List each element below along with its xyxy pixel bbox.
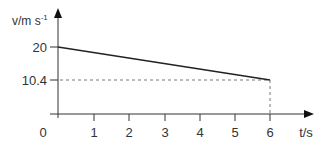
y-axis-label: v/m s-1 — [12, 13, 48, 28]
x-tick-label-5: 5 — [231, 125, 238, 140]
x-tick-label-3: 3 — [161, 125, 168, 140]
x-tick-label-6: 6 — [266, 125, 273, 140]
velocity-line — [58, 47, 270, 80]
y-axis-arrow-icon — [54, 8, 62, 18]
x-tick-label-1: 1 — [90, 125, 97, 140]
velocity-time-chart: v/m s-1 20 10.4 0 1 2 3 4 5 6 t/s — [0, 0, 328, 148]
x-axis-arrow-icon — [304, 110, 314, 118]
origin-label: 0 — [39, 125, 46, 140]
x-tick-label-4: 4 — [196, 125, 203, 140]
x-tick-label-2: 2 — [125, 125, 132, 140]
y-tick-label-20: 20 — [33, 40, 47, 55]
y-tick-label-10-4: 10.4 — [22, 73, 47, 88]
x-axis-label: t/s — [299, 125, 313, 140]
